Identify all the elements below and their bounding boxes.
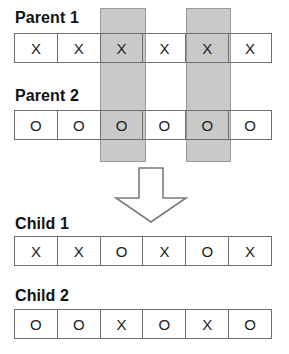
parent-1-cell-1: X <box>15 34 58 62</box>
child-2-cell-1: O <box>15 310 58 338</box>
child-2-cell-3: X <box>101 310 144 338</box>
child-2-cell-5: X <box>186 310 229 338</box>
parent-2-strip: O O O O O O <box>14 110 272 140</box>
down-arrow-icon <box>110 166 192 224</box>
parent-2-cell-3: O <box>101 111 144 139</box>
parent-1-strip: X X X X X X <box>14 33 272 63</box>
child-1-cell-1: X <box>15 237 58 265</box>
child-1-cell-5: O <box>186 237 229 265</box>
parent-1-cell-3: X <box>101 34 144 62</box>
parent-2-cell-4: O <box>143 111 186 139</box>
parent-2-label: Parent 2 <box>15 87 79 105</box>
child-1-label: Child 1 <box>15 215 69 233</box>
child-2-cell-4: O <box>143 310 186 338</box>
parent-1-label: Parent 1 <box>15 9 79 27</box>
child-1-cell-4: X <box>143 237 186 265</box>
child-1-cell-3: O <box>101 237 144 265</box>
crossover-diagram: Parent 1 X X X X X X Parent 2 O O O O O … <box>0 0 289 354</box>
parent-1-cell-4: X <box>143 34 186 62</box>
parent-1-cell-2: X <box>58 34 101 62</box>
parent-2-cell-2: O <box>58 111 101 139</box>
parent-1-cell-6: X <box>229 34 271 62</box>
parent-2-cell-6: O <box>229 111 271 139</box>
child-2-label: Child 2 <box>15 287 69 305</box>
parent-2-cell-5: O <box>186 111 229 139</box>
child-2-cell-2: O <box>58 310 101 338</box>
parent-1-cell-5: X <box>186 34 229 62</box>
child-2-strip: O O X O X O <box>14 309 272 339</box>
child-1-cell-6: X <box>229 237 271 265</box>
child-1-strip: X X O X O X <box>14 236 272 266</box>
parent-2-cell-1: O <box>15 111 58 139</box>
child-1-cell-2: X <box>58 237 101 265</box>
child-2-cell-6: O <box>229 310 271 338</box>
